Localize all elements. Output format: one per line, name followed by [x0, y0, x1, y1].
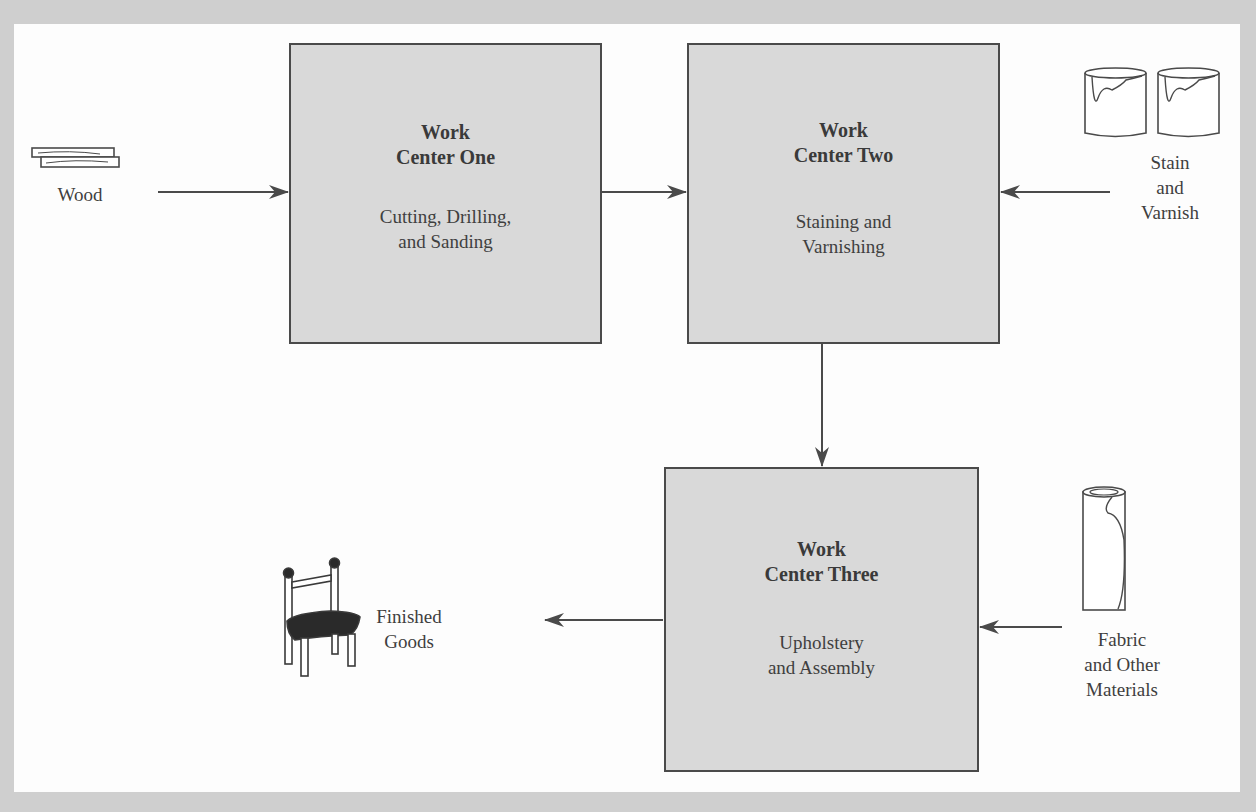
- paint-cans-icon: [1085, 68, 1219, 137]
- chair-icon: [284, 558, 361, 676]
- fabric-roll-icon: [1083, 487, 1125, 610]
- wood-planks-icon: [32, 148, 119, 167]
- diagram-graphics: [0, 0, 1256, 812]
